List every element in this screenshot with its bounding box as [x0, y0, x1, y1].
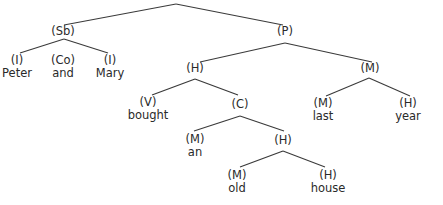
- node-tag: (C): [231, 98, 248, 111]
- node-sb: (Sb): [51, 25, 75, 38]
- edge-root-p: [176, 4, 283, 25]
- edge-c-h: [240, 116, 284, 131]
- node-tag: (M): [186, 133, 205, 146]
- edge-root-sb: [64, 4, 176, 25]
- node-mary: (I) Mary: [96, 54, 125, 79]
- node-tag: (M): [228, 169, 247, 182]
- node-tag: (H): [186, 62, 204, 75]
- edge-h2-house: [283, 151, 325, 167]
- node-word: Peter: [2, 67, 32, 80]
- node-word: Mary: [96, 67, 125, 80]
- edge-p-h: [200, 43, 285, 62]
- node-word: last: [313, 110, 334, 123]
- node-an: (M) an: [186, 133, 205, 158]
- node-word: old: [228, 182, 247, 195]
- node-tag: (Co): [51, 54, 75, 67]
- node-tag: (P): [277, 25, 293, 38]
- edge-sb-peter: [20, 39, 64, 53]
- node-old: (M) old: [228, 169, 247, 194]
- node-word: an: [186, 146, 205, 159]
- edge-m-last: [326, 78, 369, 96]
- node-year: (H) year: [395, 97, 421, 122]
- node-word: bought: [128, 109, 169, 122]
- node-tag: (H): [311, 169, 346, 182]
- edge-sb-mary: [64, 39, 108, 53]
- node-m: (M): [361, 62, 380, 75]
- edge-c-an: [194, 116, 240, 131]
- node-tag: (I): [2, 54, 32, 67]
- node-word: year: [395, 110, 421, 123]
- edge-h-c: [195, 79, 238, 95]
- node-peter: (I) Peter: [2, 54, 32, 79]
- node-house: (H) house: [311, 169, 346, 194]
- node-bought: (V) bought: [128, 96, 169, 121]
- edge-h-v: [152, 79, 195, 95]
- node-h: (H): [186, 62, 204, 75]
- node-tag: (H): [274, 134, 292, 147]
- node-tag: (H): [395, 97, 421, 110]
- node-h2: (H): [274, 134, 292, 147]
- node-c: (C): [231, 98, 248, 111]
- node-and: (Co) and: [51, 54, 75, 79]
- node-last: (M) last: [313, 97, 334, 122]
- node-tag: (Sb): [51, 25, 75, 38]
- node-tag: (V): [128, 96, 169, 109]
- node-tag: (I): [96, 54, 125, 67]
- node-p: (P): [277, 25, 293, 38]
- node-word: house: [311, 182, 346, 195]
- node-tag: (M): [361, 62, 380, 75]
- edge-p-m: [285, 43, 372, 62]
- node-tag: (M): [313, 97, 334, 110]
- edge-h2-old: [240, 151, 283, 167]
- edge-m-year: [369, 78, 410, 96]
- node-word: and: [51, 67, 75, 80]
